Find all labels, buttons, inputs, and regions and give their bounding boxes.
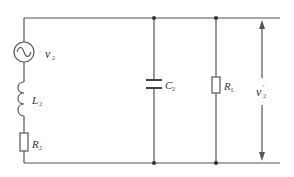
junction-dot	[214, 16, 218, 20]
circuit-svg: v 2 L 2 R 2 C 2 R L v 2 '	[0, 0, 294, 177]
inductor-icon	[18, 82, 24, 116]
junction-dot	[152, 16, 156, 20]
source-label: v	[45, 47, 51, 61]
capacitor-icon	[146, 80, 162, 88]
output-voltage-label: v	[256, 85, 262, 99]
load-resistor-subscript: L	[231, 87, 235, 93]
capacitor-subscript: 2	[172, 86, 175, 92]
circuit-diagram: v 2 L 2 R 2 C 2 R L v 2 '	[0, 0, 294, 177]
series-resistor-label: R	[31, 138, 39, 150]
source-subscript: 2	[52, 55, 55, 61]
load-resistor-icon	[212, 77, 220, 93]
inductor-label: L	[31, 94, 38, 106]
load-resistor-label: R	[223, 80, 231, 92]
junction-dots	[152, 16, 218, 165]
inductor-subscript: 2	[39, 101, 42, 107]
output-voltage-prime: '	[263, 83, 264, 91]
series-resistor-icon	[20, 133, 28, 151]
ac-source-icon	[14, 42, 34, 62]
junction-dot	[152, 161, 156, 165]
output-voltage-subscript: 2	[263, 93, 266, 99]
junction-dot	[214, 161, 218, 165]
series-resistor-subscript: 2	[39, 145, 42, 151]
